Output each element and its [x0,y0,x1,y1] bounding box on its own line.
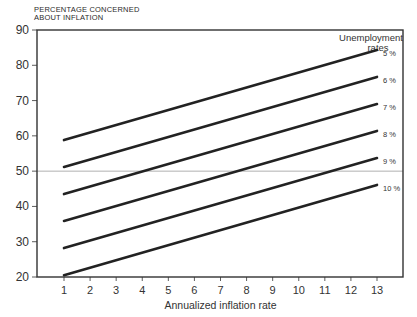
y-tick-label: 50 [16,164,30,178]
series-label: 8 % [383,130,396,139]
series-line-5-percent [64,50,377,140]
series-line-9-percent [64,158,377,248]
series-line-6-percent [64,77,377,167]
y-tick-label: 60 [16,129,30,143]
series-label: 5 % [383,49,396,58]
series-label: 6 % [383,76,396,85]
x-tick-label: 13 [371,284,383,296]
y-tick-label: 40 [16,199,30,213]
y-tick-label: 20 [16,270,30,284]
series-line-7-percent [64,104,377,194]
y-tick-label: 70 [16,94,30,108]
y-tick-label: 80 [16,58,30,72]
x-tick-label: 6 [191,284,197,296]
x-tick-label: 10 [293,284,305,296]
x-tick-label: 9 [270,284,276,296]
y-tick-label: 30 [16,235,30,249]
series-label: 9 % [383,157,396,166]
x-tick-label: 8 [244,284,250,296]
line-chart: 203040506070809012345678910111213Annuali… [0,0,417,317]
x-axis-title: Annualized inflation rate [164,299,276,311]
x-tick-label: 12 [345,284,357,296]
series-label: 10 % [383,184,400,193]
x-tick-label: 7 [217,284,223,296]
x-tick-label: 2 [87,284,93,296]
series-line-10-percent [64,185,377,275]
y-tick-label: 90 [16,23,30,37]
x-tick-label: 1 [61,284,67,296]
series-label: 7 % [383,103,396,112]
x-tick-label: 3 [113,284,119,296]
x-tick-label: 5 [165,284,171,296]
x-tick-label: 11 [319,284,330,296]
x-tick-label: 4 [139,284,145,296]
series-line-8-percent [64,131,377,221]
